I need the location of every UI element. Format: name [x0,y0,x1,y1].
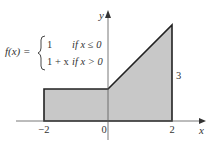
case-2-condition: if x > 0 [72,56,103,67]
y-axis-label: y [98,9,104,21]
tick-label-neg2: −2 [38,124,49,135]
y-axis-arrow-icon [105,10,111,18]
x-axis-label: x [198,124,204,136]
area-diagram: x y −2 0 2 3 f(x) = 1 if x ≤ 0 1 + x if … [0,0,208,145]
tick-label-0: 0 [101,124,106,135]
case-1-expr: 1 [47,39,52,50]
left-brace-icon [38,36,45,70]
case-1-condition: if x ≤ 0 [72,39,102,50]
height-label: 3 [176,70,181,81]
tick-label-2: 2 [169,124,174,135]
case-2-expr: 1 + x [47,56,69,67]
function-label: f(x) = [5,45,30,58]
